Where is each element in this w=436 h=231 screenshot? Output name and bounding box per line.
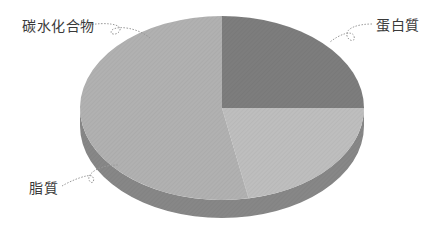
leader-line-protein <box>330 24 372 42</box>
label-carbohydrate: 碳水化合物 <box>22 15 95 35</box>
label-protein: 蛋白質 <box>376 14 420 34</box>
pie-slice-0 <box>222 16 364 108</box>
pie-slices <box>80 16 364 218</box>
label-lipid: 脂質 <box>29 177 58 197</box>
